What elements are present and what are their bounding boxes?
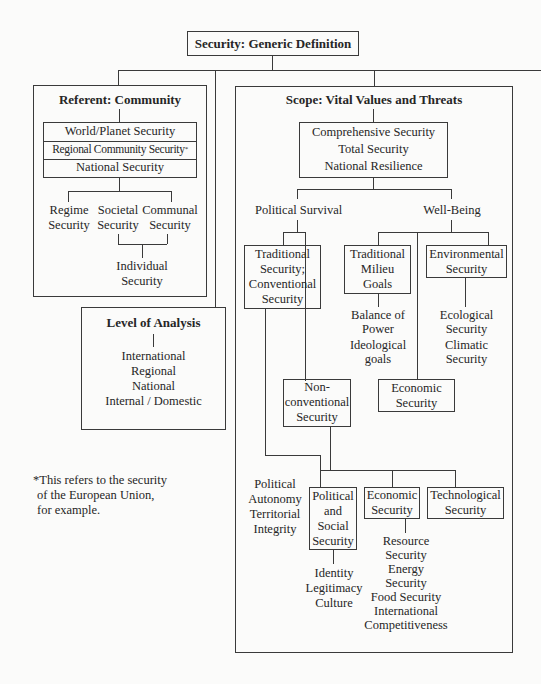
comprehensive-list: Comprehensive Security Total Security Na… [299,124,448,175]
connector [451,189,452,199]
political-autonomy-territorial-integrity: Political Autonomy Territorial Integrity [240,477,310,537]
footnote-mark: * [185,145,188,153]
well-being-label: Well-Being [412,203,492,218]
connector [118,70,119,85]
political-survival-label: Political Survival [255,203,340,218]
connector [451,220,452,232]
connector [283,232,305,233]
connector [373,177,374,189]
societal-security: SocietalSecurity [93,203,143,233]
non-conventional-security-label: Non- conventional Security [283,380,351,425]
connector [405,518,406,533]
root-node-title: Security: Generic Definition [188,36,358,51]
economic-items: Resource Security Energy Security Food S… [360,534,452,632]
level-of-analysis-heading: Level of Analysis [81,315,226,330]
milieu-items: Balance of Power Ideological goals [340,309,416,366]
connector [378,232,488,233]
connector [374,70,375,86]
level-regional: Regional [81,364,226,379]
traditional-milieu-goals-label: Traditional Milieu Goals [344,247,411,292]
connector [119,177,120,191]
connector [118,234,119,244]
economic-security-lower-label: Economic Security [364,488,420,518]
connector [392,470,393,487]
root-node-box: Security: Generic Definition [187,31,359,56]
scope-heading: Scope: Vital Values and Threats [235,92,513,107]
stack-world-planet: World/Planet Security [44,123,196,142]
connector [215,70,216,307]
connector [378,293,379,307]
connector [297,189,298,199]
connector [417,232,418,380]
technological-security-label: Technological Security [427,488,504,518]
connector [330,426,331,470]
environmental-items: Ecological Security Climatic Security [426,309,507,366]
individual-security: IndividualSecurity [110,259,174,289]
connector [488,232,489,245]
level-items: International Regional National Internal… [81,349,226,409]
connector [455,470,456,487]
connector [283,232,284,245]
connector [297,189,451,190]
level-international: International [81,349,226,364]
connector [465,277,466,307]
connector [118,70,541,71]
stack-regional-community: Regional Community Security* [44,141,196,160]
connector [68,191,69,202]
economic-security-upper-label: Economic Security [378,381,455,411]
connector [171,191,172,202]
connector [297,220,298,232]
political-social-security-label: Political and Social Security [309,489,357,549]
connector [333,549,334,564]
referent-heading: Referent: Community [33,92,207,107]
connector [68,191,171,192]
traditional-security-label: Traditional Security; Conventional Secur… [244,247,321,307]
connector [320,470,455,471]
communal-security: CommunalSecurity [140,203,200,233]
connector [320,455,321,487]
connector [119,109,120,122]
connector [265,308,266,455]
connector [142,244,143,258]
connector [378,232,379,245]
connector [153,334,154,347]
connector [373,109,374,122]
level-internal-domestic: Internal / Domestic [81,394,226,409]
footnote: *This refers to the security of the Euro… [33,473,167,518]
environmental-security-label: Environmental Security [426,247,507,277]
connector [265,455,320,456]
stack-national: National Security [44,159,196,177]
connector [272,55,273,70]
stack-regional-label: Regional Community Security [52,143,184,155]
level-national: National [81,379,226,394]
regime-security: RegimeSecurity [44,203,94,233]
referent-stack-box: World/Planet Security Regional Community… [43,122,197,178]
political-social-items: Identity Legitimacy Culture [303,566,365,611]
connector [167,234,168,244]
